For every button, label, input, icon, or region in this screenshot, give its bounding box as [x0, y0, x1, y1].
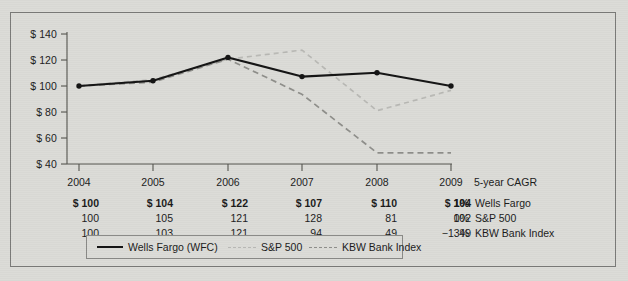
legend-swatch-dashed-light-line-icon: [228, 247, 256, 248]
cell-sp-cagr: 0%: [429, 212, 469, 224]
legend-item-sp500[interactable]: S&P 500: [228, 236, 302, 258]
data-table: 5-year CAGR $ 100 $ 104 $ 122 $ 107 $ 11…: [11, 13, 617, 268]
cagr-column-header: 5-year CAGR: [474, 176, 537, 188]
cell-sp-2005: 105: [113, 212, 173, 224]
cell-sp-2008: 81: [337, 212, 397, 224]
row-label-kbw-bank-index: KBW Bank Index: [475, 227, 554, 239]
legend-swatch-dashed-dark-line-icon: [309, 247, 337, 248]
cell-wf-2005: $ 104: [113, 197, 173, 209]
row-label-sp500: S&P 500: [475, 212, 516, 224]
chart-canvas: $ 140 $ 120 $ 100 $ 80 $ 60 $ 40 2004 20…: [0, 0, 628, 281]
row-label-wells-fargo: Wells Fargo: [475, 197, 531, 209]
cell-sp-2004: 100: [39, 212, 99, 224]
legend-item-wells-fargo[interactable]: Wells Fargo (WFC): [97, 236, 218, 258]
cell-kbw-cagr: −13%: [429, 227, 469, 239]
cell-wf-2004: $ 100: [39, 197, 99, 209]
legend-item-kbw-bank-index[interactable]: KBW Bank Index: [309, 236, 421, 258]
cell-wf-2008: $ 110: [337, 197, 397, 209]
cell-wf-2006: $ 122: [188, 197, 248, 209]
legend-label-wells-fargo: Wells Fargo (WFC): [128, 241, 218, 253]
cell-wf-cagr: 1%: [429, 197, 469, 209]
cell-sp-2007: 128: [262, 212, 322, 224]
legend-label-kbw-bank-index: KBW Bank Index: [342, 241, 421, 253]
cell-sp-2006: 121: [188, 212, 248, 224]
chart-legend: Wells Fargo (WFC) S&P 500 KBW Bank Index: [86, 235, 403, 259]
cell-wf-2007: $ 107: [262, 197, 322, 209]
chart-frame: $ 140 $ 120 $ 100 $ 80 $ 60 $ 40 2004 20…: [10, 12, 616, 267]
legend-label-sp500: S&P 500: [261, 241, 302, 253]
legend-swatch-solid-line-icon: [97, 246, 123, 248]
